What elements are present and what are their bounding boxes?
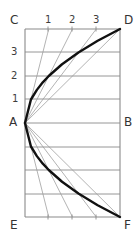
label-left-tick-1: 1 <box>12 94 18 104</box>
label-corner-d: D <box>124 14 133 26</box>
label-top-tick-2: 2 <box>69 15 75 25</box>
label-point-a: A <box>9 116 17 128</box>
label-corner-c: C <box>10 14 18 26</box>
label-top-tick-3: 3 <box>93 15 99 25</box>
label-corner-e: E <box>10 219 18 231</box>
label-corner-f: F <box>124 219 131 231</box>
label-point-b: B <box>124 116 132 128</box>
label-left-tick-2: 2 <box>11 71 17 81</box>
diagram-canvas <box>0 0 139 244</box>
figure-root: C D A B E F 1 2 3 3 2 1 <box>0 0 139 244</box>
label-left-tick-3: 3 <box>11 47 17 57</box>
label-top-tick-1: 1 <box>45 15 51 25</box>
